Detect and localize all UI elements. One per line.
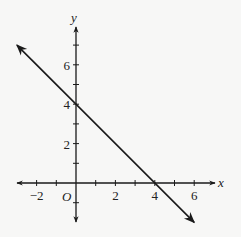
y-tick-label: 6 — [64, 58, 71, 73]
x-tick-label: 6 — [191, 188, 198, 203]
y-tick-label: 4 — [64, 97, 71, 112]
y-tick-label: 2 — [64, 137, 71, 152]
x-tick-label: 4 — [152, 188, 159, 203]
coordinate-plane: xyO−2246246 — [0, 0, 241, 237]
x-tick-label: 2 — [112, 188, 119, 203]
tick-marks — [37, 45, 195, 203]
x-axis-label: x — [217, 175, 224, 190]
origin-label: O — [62, 189, 72, 204]
tick-labels: xyO−2246246 — [30, 10, 224, 204]
y-axis-label: y — [69, 10, 77, 25]
x-tick-label: −2 — [30, 188, 44, 203]
